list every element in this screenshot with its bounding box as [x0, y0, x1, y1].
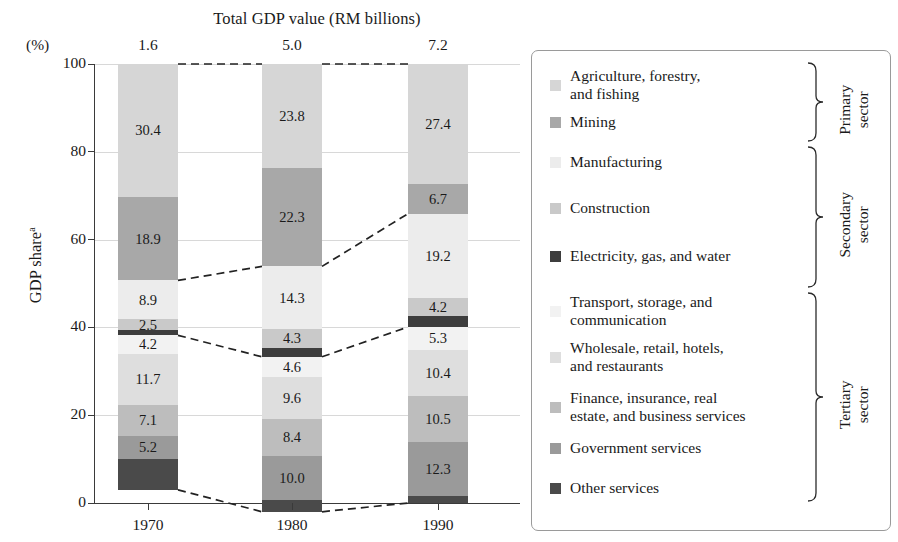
sector-connector-line — [178, 335, 262, 357]
connector-lines — [94, 64, 520, 503]
y-tick-label: 40 — [46, 317, 86, 335]
x-tick-label-1990: 1990 — [393, 516, 483, 534]
y-tick-label: 0 — [46, 493, 86, 511]
gdp-total-1970: 1.6 — [108, 36, 188, 54]
sector-brace — [808, 147, 823, 287]
x-tick-label-1980: 1980 — [247, 516, 337, 534]
x-tick-mark — [438, 503, 439, 510]
y-axis-title: GDP sharea — [26, 185, 47, 345]
x-tick-mark — [292, 503, 293, 510]
legend-box: Agriculture, forestry,and fishingMiningM… — [531, 50, 891, 531]
gdp-total-1980: 5.0 — [252, 36, 332, 54]
y-tick-label: 80 — [46, 142, 86, 160]
sector-brace — [808, 63, 823, 141]
y-tick-label: 20 — [46, 405, 86, 423]
y-tick-label: 100 — [46, 54, 86, 72]
sector-connector-line — [322, 327, 408, 357]
x-tick-label-1970: 1970 — [103, 516, 193, 534]
y-tick-label: 60 — [46, 230, 86, 248]
gdp-total-1990: 7.2 — [398, 36, 478, 54]
y-axis-title-superscript: a — [26, 227, 37, 231]
y-unit-label: (%) — [26, 36, 49, 54]
x-tick-mark — [148, 503, 149, 510]
plot-area: 020406080100 30.418.98.92.54.211.77.15.2… — [94, 64, 520, 503]
sector-connector-line — [322, 214, 408, 267]
sector-brace — [808, 293, 823, 501]
sector-connector-line — [178, 490, 262, 512]
chart-figure: Total GDP value (RM billions) (%) GDP sh… — [0, 0, 898, 542]
sector-label: Tertiarysector — [836, 281, 872, 529]
sector-connector-line — [178, 266, 262, 280]
chart-top-title: Total GDP value (RM billions) — [112, 9, 522, 29]
y-axis-title-text: GDP share — [26, 232, 45, 303]
